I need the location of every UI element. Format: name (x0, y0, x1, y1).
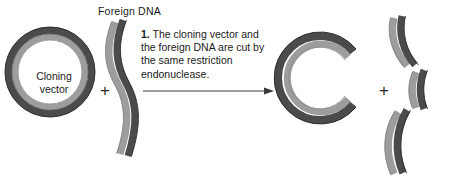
fragment-middle-light-strand (412, 72, 416, 108)
cloning-vector-label-line1: Cloning (16, 70, 92, 83)
cut-vector-inner-strand (287, 44, 348, 112)
arrow-svg (143, 86, 275, 96)
arrow-right-icon (143, 86, 275, 96)
foreign-dna-svg (104, 18, 146, 158)
step-number: 1. (141, 28, 150, 40)
cut-vector-inner-edge (289, 47, 345, 109)
dna-fragment-bottom (385, 110, 411, 174)
dna-fragment-middle (409, 70, 428, 109)
cloning-vector-label-line2: vector (16, 83, 92, 96)
foreign-dna-shape (104, 18, 146, 162)
dna-fragments-group (382, 8, 454, 183)
step-description: 1. The cloning vector and the foreign DN… (141, 28, 269, 81)
foreign-dna-label: Foreign DNA (98, 5, 161, 18)
fragments-svg (382, 8, 454, 180)
step-body: The cloning vector and the foreign DNA a… (141, 28, 264, 80)
cut-vector-svg (272, 30, 368, 126)
dna-fragment-top (389, 16, 418, 66)
cut-cloning-vector-shape (272, 30, 368, 130)
cloning-vector-label: Cloning vector (16, 70, 92, 96)
cloning-diagram: Foreign DNA Cloning vector + 1. T (0, 0, 454, 183)
